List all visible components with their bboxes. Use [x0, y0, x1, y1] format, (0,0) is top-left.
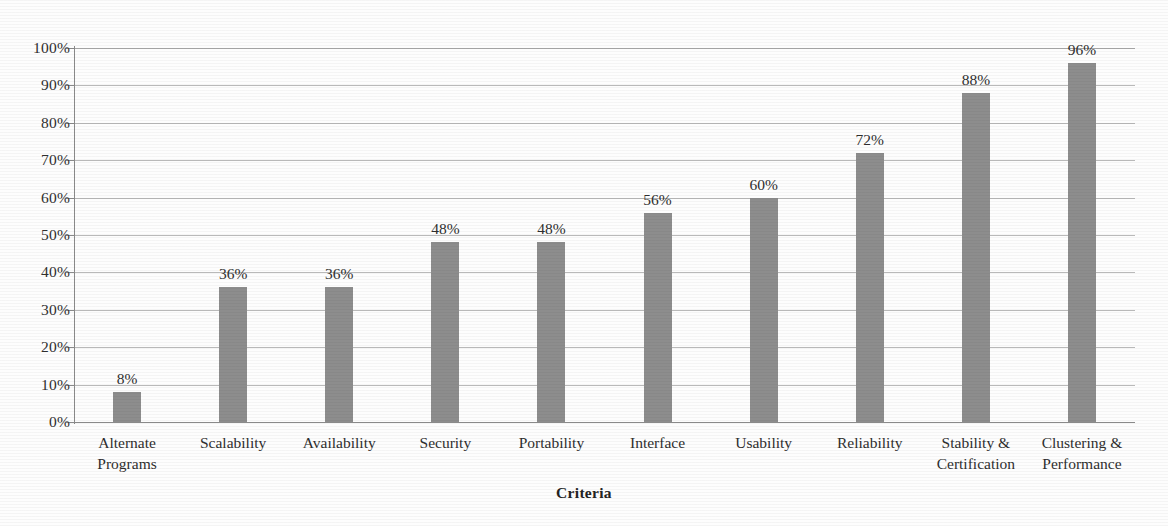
bar	[750, 198, 778, 422]
category-label-line: Performance	[1022, 453, 1142, 474]
bar-value-label: 48%	[400, 220, 490, 238]
category-label: AlternatePrograms	[67, 432, 187, 474]
category-label-line: Alternate	[67, 432, 187, 453]
y-axis-tick-label: 40%	[0, 263, 70, 281]
bar	[431, 242, 459, 422]
bar-value-label: 96%	[1037, 41, 1127, 59]
y-axis-tick-label: 90%	[0, 76, 70, 94]
y-axis-tick-label: 80%	[0, 114, 70, 132]
y-axis-tick-label: 70%	[0, 151, 70, 169]
bar-value-label: 88%	[931, 71, 1021, 89]
bar	[962, 93, 990, 422]
category-label-line: Reliability	[810, 432, 930, 453]
category-label-line: Availability	[279, 432, 399, 453]
category-label: Availability	[279, 432, 399, 453]
bar	[537, 242, 565, 422]
bar-value-label: 8%	[82, 370, 172, 388]
category-label: Clustering &Performance	[1022, 432, 1142, 474]
category-label: Stability &Certification	[916, 432, 1036, 474]
x-axis-title: Criteria	[0, 484, 1168, 502]
x-axis-line	[74, 422, 1135, 423]
y-axis-tick-label: 20%	[0, 338, 70, 356]
category-label: Scalability	[173, 432, 293, 453]
bar	[856, 153, 884, 422]
bar-value-label: 72%	[825, 131, 915, 149]
category-label: Interface	[598, 432, 718, 453]
y-axis-tick-label: 0%	[0, 413, 70, 431]
category-label-line: Interface	[598, 432, 718, 453]
y-axis-tick-label: 10%	[0, 376, 70, 394]
y-axis-tick-label: 100%	[0, 39, 70, 57]
bar	[1068, 63, 1096, 422]
y-axis-tick-label: 60%	[0, 189, 70, 207]
category-label: Reliability	[810, 432, 930, 453]
plot-area	[74, 48, 1135, 422]
y-axis-line	[74, 46, 75, 424]
category-label-line: Programs	[67, 453, 187, 474]
category-label-line: Scalability	[173, 432, 293, 453]
category-label-line: Usability	[704, 432, 824, 453]
category-label-line: Clustering &	[1022, 432, 1142, 453]
bar	[325, 287, 353, 422]
y-axis-tick-label: 30%	[0, 301, 70, 319]
category-label-line: Portability	[491, 432, 611, 453]
bar	[219, 287, 247, 422]
category-label: Usability	[704, 432, 824, 453]
bar-value-label: 56%	[613, 191, 703, 209]
y-axis-tick-label: 50%	[0, 226, 70, 244]
bar	[113, 392, 141, 422]
category-label: Portability	[491, 432, 611, 453]
category-label: Security	[385, 432, 505, 453]
category-label-line: Security	[385, 432, 505, 453]
bar-value-label: 36%	[188, 265, 278, 283]
bar-value-label: 60%	[719, 176, 809, 194]
bar-value-label: 48%	[506, 220, 596, 238]
bar-chart: 0%10%20%30%40%50%60%70%80%90%100% 8%36%3…	[0, 0, 1168, 526]
category-label-line: Stability &	[916, 432, 1036, 453]
category-label-line: Certification	[916, 453, 1036, 474]
bar	[644, 213, 672, 422]
gridline	[74, 48, 1135, 49]
bar-value-label: 36%	[294, 265, 384, 283]
